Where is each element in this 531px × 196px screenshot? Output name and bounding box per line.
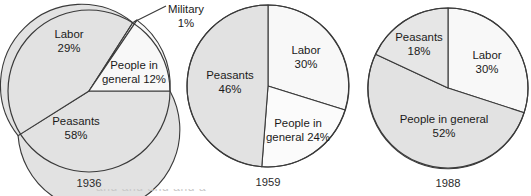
- pie-chart-1988-svg: Peasants 18% Labor 30% People in general…: [0, 0, 531, 196]
- year-label-1988: 1988: [436, 177, 461, 189]
- label-labor-1988: Labor: [472, 49, 501, 61]
- cropped-caption-text: and and and and a: [96, 189, 206, 194]
- pie-chart-1988: Peasants 18% Labor 30% People in general…: [0, 0, 531, 196]
- label-people-in-general-line1-1988: People in general: [400, 113, 489, 125]
- cropped-caption-strip: and and and and a: [0, 189, 531, 196]
- label-labor-pct-1988: 30%: [476, 63, 499, 75]
- pie-chart-figure: Labor 29% Military 1% People in general …: [0, 0, 531, 196]
- label-peasants-pct-1988: 18%: [408, 45, 431, 57]
- label-people-in-general-line2-1988: 52%: [433, 127, 456, 139]
- label-peasants-1988: Peasants: [395, 31, 443, 43]
